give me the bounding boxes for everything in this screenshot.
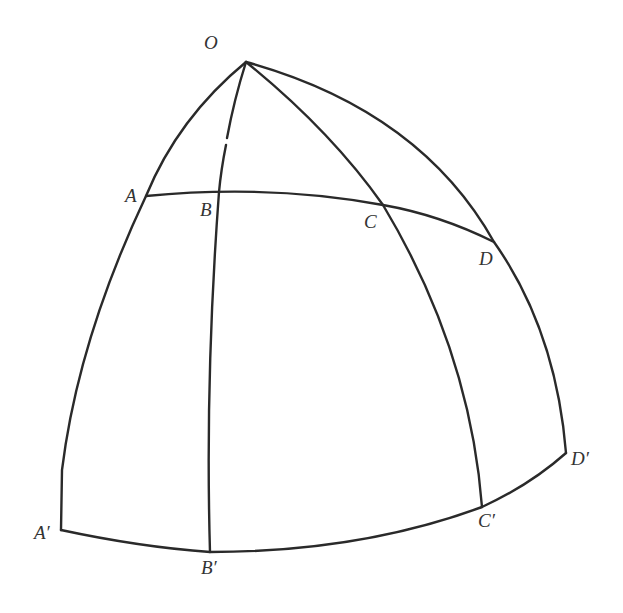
meridian-ob-upper xyxy=(227,62,246,138)
label-d: D xyxy=(478,248,493,269)
label-c-prime: C′ xyxy=(478,510,496,531)
meridian-oa xyxy=(61,62,246,530)
base-arc xyxy=(61,453,566,552)
label-b: B xyxy=(200,199,212,220)
spherical-diagram: O A B C D A′ B′ C′ D′ xyxy=(0,0,623,613)
label-a: A xyxy=(123,185,137,206)
meridian-oc xyxy=(246,62,482,507)
label-b-prime: B′ xyxy=(201,557,218,578)
label-o: O xyxy=(204,32,218,53)
label-d-prime: D′ xyxy=(570,448,590,469)
label-a-prime: A′ xyxy=(32,522,51,543)
parallel-abcd xyxy=(146,192,494,242)
meridian-od xyxy=(246,62,566,453)
label-c: C xyxy=(364,211,377,232)
